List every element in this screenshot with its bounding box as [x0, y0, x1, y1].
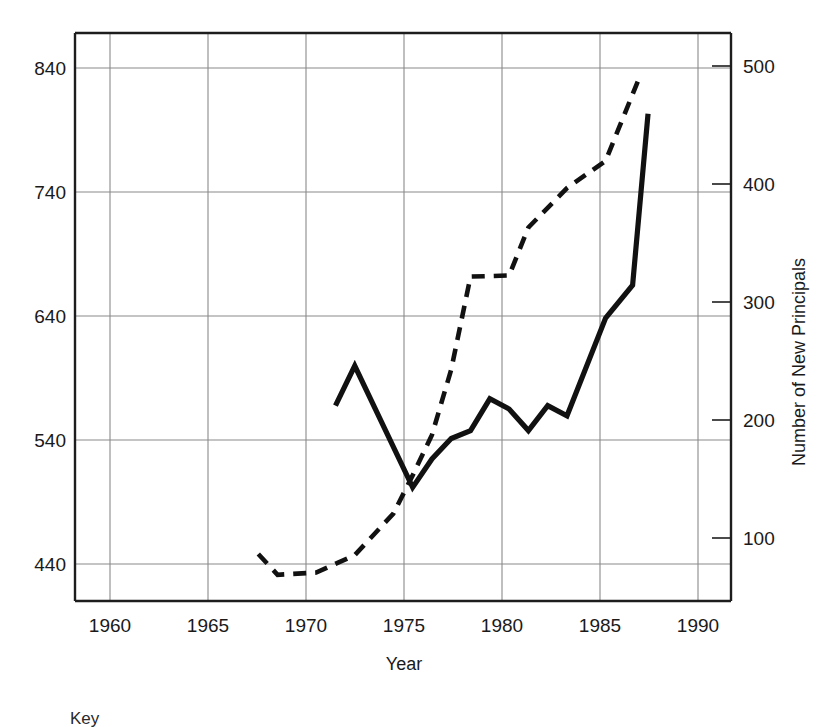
y-tick-label-left-740: 740	[34, 182, 66, 203]
key-heading: Key	[70, 709, 100, 727]
x-tick-label-1990: 1990	[677, 615, 719, 636]
x-axis-title: Year	[386, 654, 422, 674]
figure-container: 840 740 640 540 440 500 400 300 200 100 …	[0, 0, 823, 727]
chart-canvas: 840 740 640 540 440 500 400 300 200 100 …	[0, 0, 823, 727]
y-tick-label-right-100: 100	[743, 528, 775, 549]
right-axis-ticks	[712, 66, 731, 538]
x-tick-label-1965: 1965	[187, 615, 229, 636]
x-tick-label-1980: 1980	[481, 615, 523, 636]
x-tick-label-1985: 1985	[579, 615, 621, 636]
left-axis-tick-labels: 840 740 640 540 440	[34, 58, 66, 575]
y-tick-label-left-440: 440	[34, 554, 66, 575]
y-tick-label-right-300: 300	[743, 292, 775, 313]
x-tick-label-1960: 1960	[89, 615, 131, 636]
solid-series-line	[335, 114, 648, 488]
y-tick-label-right-200: 200	[743, 410, 775, 431]
y-tick-label-right-400: 400	[743, 174, 775, 195]
x-tick-label-1970: 1970	[285, 615, 327, 636]
y-axis-title-right: Number of New Principals	[789, 258, 809, 466]
y-tick-label-left-840: 840	[34, 58, 66, 79]
plot-gridlines	[75, 33, 731, 601]
x-tick-label-1975: 1975	[383, 615, 425, 636]
y-tick-label-right-500: 500	[743, 56, 775, 77]
x-axis-tick-labels: 1960 1965 1970 1975 1980 1985 1990	[89, 615, 719, 636]
dashed-series-line	[258, 80, 638, 575]
y-tick-label-left-540: 540	[34, 430, 66, 451]
right-axis-tick-labels: 500 400 300 200 100	[743, 56, 775, 549]
y-tick-label-left-640: 640	[34, 306, 66, 327]
plot-frame	[75, 33, 731, 601]
data-series-group	[258, 80, 648, 575]
